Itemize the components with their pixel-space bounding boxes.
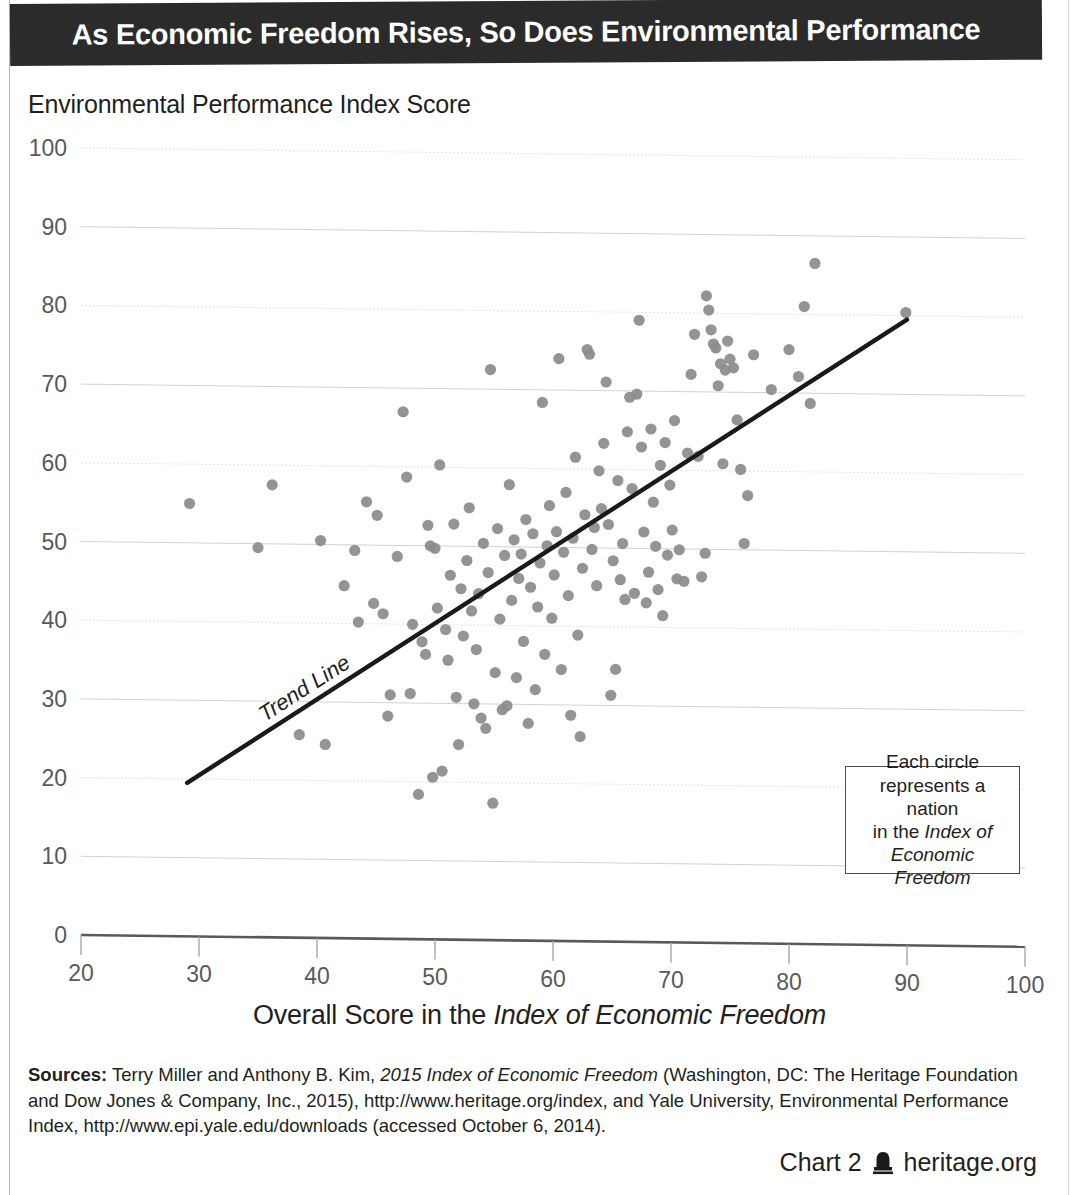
data-point bbox=[416, 636, 427, 647]
data-points-group bbox=[184, 258, 911, 809]
data-point bbox=[392, 551, 403, 562]
data-point bbox=[448, 519, 459, 530]
y-tick-label-50: 50 bbox=[41, 529, 67, 555]
data-point bbox=[377, 608, 388, 619]
y-tick-label-20: 20 bbox=[41, 765, 67, 791]
legend-note-line3-italic: Index of bbox=[925, 821, 993, 842]
data-point bbox=[667, 524, 678, 535]
data-point bbox=[511, 672, 522, 683]
data-point bbox=[440, 624, 451, 635]
gridline-y-100 bbox=[81, 148, 1025, 160]
gridline-y-80 bbox=[81, 305, 1025, 317]
data-point bbox=[631, 389, 642, 400]
data-point bbox=[434, 459, 445, 470]
data-point bbox=[793, 371, 804, 382]
data-point bbox=[558, 547, 569, 558]
data-point bbox=[608, 555, 619, 566]
legend-note-line1: Each circle bbox=[886, 751, 979, 772]
data-point bbox=[398, 406, 409, 417]
x-axis-group bbox=[81, 935, 1025, 967]
data-point bbox=[252, 542, 263, 553]
data-point bbox=[717, 458, 728, 469]
x-axis-title: Overall Score in the Index of Economic F… bbox=[0, 1000, 1079, 1031]
heritage-bell-logo bbox=[872, 1151, 894, 1175]
data-point bbox=[572, 629, 583, 640]
data-point bbox=[461, 555, 472, 566]
data-point bbox=[420, 649, 431, 660]
data-point bbox=[487, 798, 498, 809]
data-point bbox=[650, 541, 661, 552]
data-point bbox=[490, 667, 501, 678]
data-point bbox=[468, 698, 479, 709]
data-point bbox=[508, 534, 519, 545]
data-point bbox=[575, 731, 586, 742]
data-point bbox=[655, 460, 666, 471]
chart-footer: Chart 2 heritage.org bbox=[780, 1148, 1037, 1177]
data-point bbox=[478, 538, 489, 549]
data-point bbox=[615, 574, 626, 585]
y-tick-label-40: 40 bbox=[41, 607, 67, 633]
x-tick-label-80: 80 bbox=[776, 969, 802, 995]
data-point bbox=[669, 415, 680, 426]
data-point bbox=[619, 594, 630, 605]
data-point bbox=[648, 497, 659, 508]
data-point bbox=[523, 718, 534, 729]
data-point bbox=[466, 605, 477, 616]
data-point bbox=[622, 426, 633, 437]
sources-note: Sources: Terry Miller and Anthony B. Kim… bbox=[28, 1062, 1038, 1139]
gridline-y-90 bbox=[81, 227, 1025, 239]
data-point bbox=[766, 384, 777, 395]
data-point bbox=[586, 544, 597, 555]
data-point bbox=[458, 630, 469, 641]
chart-number-label: Chart 2 bbox=[780, 1148, 862, 1177]
data-point bbox=[442, 655, 453, 666]
data-point bbox=[674, 544, 685, 555]
sources-text-1: Terry Miller and Anthony B. Kim, bbox=[107, 1064, 380, 1085]
data-point bbox=[549, 569, 560, 580]
data-point bbox=[565, 710, 576, 721]
data-point bbox=[532, 601, 543, 612]
data-point bbox=[546, 613, 557, 624]
heritage-site-label: heritage.org bbox=[904, 1148, 1037, 1177]
x-axis-title-prefix: Overall Score in the bbox=[253, 1000, 493, 1030]
y-tick-label-30: 30 bbox=[41, 686, 67, 712]
data-point bbox=[485, 364, 496, 375]
data-point bbox=[537, 397, 548, 408]
data-point bbox=[544, 500, 555, 511]
data-point bbox=[685, 369, 696, 380]
data-point bbox=[735, 464, 746, 475]
data-point bbox=[662, 550, 673, 561]
data-point bbox=[527, 528, 538, 539]
x-tick-label-40: 40 bbox=[304, 963, 330, 989]
y-tick-label-90: 90 bbox=[41, 214, 67, 240]
data-point bbox=[638, 526, 649, 537]
data-point bbox=[184, 498, 195, 509]
data-point bbox=[471, 644, 482, 655]
data-point bbox=[480, 723, 491, 734]
sources-label: Sources: bbox=[28, 1064, 107, 1085]
data-point bbox=[506, 595, 517, 606]
data-point bbox=[696, 571, 707, 582]
data-point bbox=[551, 526, 562, 537]
data-point bbox=[501, 700, 512, 711]
data-point bbox=[539, 649, 550, 660]
data-point bbox=[315, 535, 326, 546]
data-point bbox=[643, 567, 654, 578]
data-point bbox=[353, 616, 364, 627]
data-point bbox=[429, 543, 440, 554]
data-point bbox=[516, 548, 527, 559]
x-tick-label-50: 50 bbox=[422, 964, 448, 990]
data-point bbox=[553, 353, 564, 364]
data-point bbox=[706, 324, 717, 335]
data-point bbox=[267, 479, 278, 490]
data-point bbox=[805, 398, 816, 409]
trend-line-group: Trend Line bbox=[187, 320, 907, 783]
y-tick-label-0: 0 bbox=[54, 922, 67, 948]
data-point bbox=[728, 362, 739, 373]
y-tick-label-70: 70 bbox=[41, 371, 67, 397]
data-point bbox=[464, 502, 475, 513]
data-point bbox=[494, 614, 505, 625]
data-point bbox=[349, 545, 360, 556]
y-tick-label-80: 80 bbox=[41, 292, 67, 318]
data-point bbox=[629, 588, 640, 599]
